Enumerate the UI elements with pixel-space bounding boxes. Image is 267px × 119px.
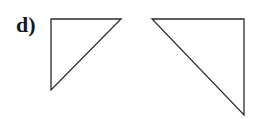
left-right-triangle [51,19,121,90]
right-right-triangle [152,19,244,115]
triangles-figure [0,0,267,119]
